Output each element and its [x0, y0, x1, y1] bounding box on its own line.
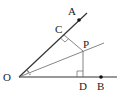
- right-angle-c: [61, 38, 69, 42]
- label-o: O: [3, 71, 11, 83]
- angle-tick-2: [29, 74, 31, 75]
- label-p: P: [83, 38, 89, 50]
- label-b: B: [97, 80, 104, 92]
- label-a: A: [68, 5, 76, 17]
- ray-oa: [19, 13, 87, 77]
- segment-pc: [64, 35, 83, 51]
- bisector-op: [19, 43, 104, 77]
- label-d: D: [79, 80, 87, 92]
- right-angle-d: [77, 71, 83, 77]
- point-a-dot: [77, 18, 81, 22]
- label-c: C: [55, 23, 62, 35]
- point-b-dot: [99, 75, 103, 79]
- geometry-diagram: O A B C D P: [0, 0, 120, 96]
